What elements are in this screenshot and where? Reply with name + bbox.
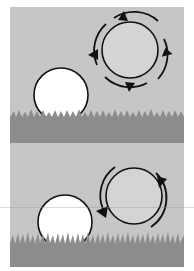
top-illustration [10, 7, 184, 143]
panel-bottom [10, 143, 184, 267]
panel-top [10, 7, 184, 143]
scan-line-artifact [0, 207, 194, 208]
wheel-circle [106, 168, 162, 224]
wheel-circle [102, 22, 158, 78]
grass [10, 109, 184, 143]
bottom-illustration [10, 143, 184, 267]
